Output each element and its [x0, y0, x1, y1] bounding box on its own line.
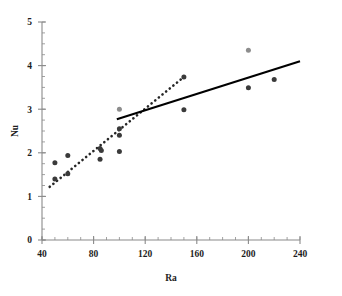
data-point-marker — [117, 107, 122, 112]
scatter-plot-canvas: 012345 4080120160200240 Nu Ra — [0, 0, 342, 296]
data-point-marker — [117, 126, 122, 131]
x-axis-tick-label: 240 — [293, 249, 308, 259]
y-axis-tick-label: 0 — [27, 235, 32, 245]
plot-background — [0, 0, 342, 296]
data-point-marker — [52, 176, 57, 181]
y-axis-title: Nu — [10, 124, 20, 137]
y-axis-tick-label: 5 — [27, 17, 32, 27]
data-point-marker — [181, 74, 186, 79]
data-point-marker — [246, 48, 251, 53]
data-point-marker — [52, 160, 57, 165]
data-point-marker — [246, 85, 251, 90]
data-point-marker — [117, 149, 122, 154]
y-axis-minor-ticks — [42, 22, 45, 240]
data-point-marker — [117, 133, 122, 138]
x-axis-tick-label: 200 — [241, 249, 256, 259]
data-point-marker — [181, 107, 186, 112]
x-axis-title: Ra — [165, 273, 177, 283]
x-axis-minor-ticks — [42, 237, 300, 240]
y-axis-tick-label: 4 — [27, 61, 32, 71]
x-axis-tick-label: 160 — [190, 249, 205, 259]
data-point-marker — [98, 157, 103, 162]
data-point-marker — [65, 171, 70, 176]
x-axis-tick-label: 80 — [89, 249, 99, 259]
y-axis-tick-label: 3 — [27, 105, 32, 115]
y-axis-tick-label: 1 — [27, 192, 32, 202]
y-axis-tick-label: 2 — [27, 148, 32, 158]
x-axis-tick-label: 120 — [138, 249, 153, 259]
data-point-marker — [272, 77, 277, 82]
data-point-marker — [65, 153, 70, 158]
chart-figure: 012345 4080120160200240 Nu Ra — [0, 0, 342, 296]
data-point-marker — [99, 148, 104, 153]
x-axis-tick-label: 40 — [37, 249, 47, 259]
